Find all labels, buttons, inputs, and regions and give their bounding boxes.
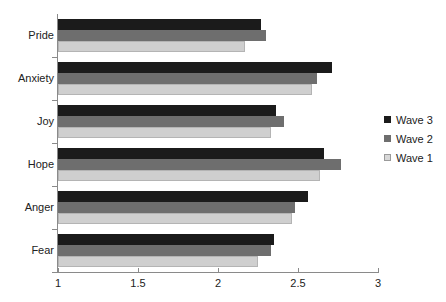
legend-item: Wave 3 [384, 110, 433, 129]
y-axis-label: Joy [0, 115, 54, 127]
y-axis-label: Hope [0, 158, 54, 170]
bar [58, 234, 274, 245]
y-axis-label: Fear [0, 244, 54, 256]
bar-chart: PrideAnxietyJoyHopeAngerFear 11.522.53 W… [0, 0, 446, 302]
y-axis-tick [52, 186, 57, 187]
x-axis-tick [58, 268, 59, 273]
x-axis-tick-label: 3 [358, 277, 398, 289]
x-axis-tick-label: 2 [198, 277, 238, 289]
bar-group [58, 100, 378, 143]
y-axis-tick [52, 57, 57, 58]
bar [58, 213, 292, 224]
x-axis-tick-label: 2.5 [278, 277, 318, 289]
x-axis-tick [138, 268, 139, 273]
legend-label: Wave 2 [396, 133, 433, 145]
x-axis-tick-label: 1 [38, 277, 78, 289]
legend-label: Wave 1 [396, 152, 433, 164]
legend-swatch-icon [384, 135, 391, 142]
y-axis-tick [52, 100, 57, 101]
y-axis-tick [52, 143, 57, 144]
bar [58, 84, 312, 95]
bar [58, 62, 332, 73]
legend-swatch-icon [384, 116, 391, 123]
bar [58, 148, 324, 159]
y-axis-tick [52, 229, 57, 230]
bar [58, 105, 276, 116]
legend-item: Wave 2 [384, 129, 433, 148]
legend-swatch-icon [384, 154, 391, 161]
bar-group [58, 143, 378, 186]
chart-legend: Wave 3Wave 2Wave 1 [384, 110, 433, 167]
bar [58, 202, 295, 213]
bar [58, 41, 245, 52]
bar [58, 159, 341, 170]
bar [58, 116, 284, 127]
plot-area [58, 14, 378, 272]
bar [58, 30, 266, 41]
bar [58, 127, 271, 138]
x-axis-tick [378, 268, 379, 273]
y-axis-tick [52, 272, 57, 273]
legend-label: Wave 3 [396, 114, 433, 126]
bar-group [58, 57, 378, 100]
x-axis-tick [218, 268, 219, 273]
bar-group [58, 186, 378, 229]
x-axis-tick [298, 268, 299, 273]
y-axis-label: Anxiety [0, 72, 54, 84]
bar [58, 191, 308, 202]
bar-group [58, 229, 378, 272]
bar [58, 170, 320, 181]
y-axis-label: Anger [0, 201, 54, 213]
legend-item: Wave 1 [384, 148, 433, 167]
bar [58, 19, 261, 30]
x-axis-tick-label: 1.5 [118, 277, 158, 289]
bar [58, 256, 258, 267]
bar [58, 73, 317, 84]
y-axis-label: Pride [0, 29, 54, 41]
bar-group [58, 14, 378, 57]
bar [58, 245, 271, 256]
